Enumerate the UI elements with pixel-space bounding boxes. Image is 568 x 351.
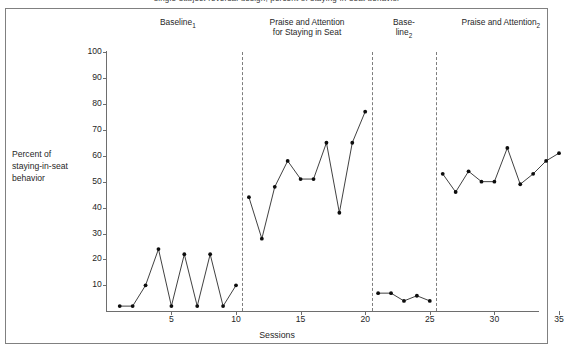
phase-divider [372,52,373,311]
phase-header-subscript: 2 [409,32,413,39]
phase-baseline-1: Baseline1 [108,17,248,31]
x-tick-label: 30 [481,314,507,324]
y-tick-mark [103,182,107,183]
x-tick-label: 10 [223,314,249,324]
data-point [557,151,561,155]
y-tick-label: 20 [78,253,102,263]
y-tick-label: 40 [78,202,102,212]
x-tick-mark [430,311,431,315]
x-tick-mark [494,311,495,315]
x-tick-label: 35 [546,314,568,324]
phase-divider [242,52,243,311]
x-tick-mark [301,311,302,315]
y-tick-mark [103,208,107,209]
y-tick-label: 90 [78,72,102,82]
y-tick-label: 50 [78,176,102,186]
y-tick-label: 70 [78,124,102,134]
y-tick-label: 30 [78,228,102,238]
y-tick-label: 80 [78,98,102,108]
phase-header-subscript: 2 [537,22,541,29]
x-tick-mark [365,311,366,315]
phase-praise-2: Praise and Attention2 [431,17,568,31]
y-tick-mark [103,285,107,286]
y-tick-label: 100 [78,46,102,56]
y-tick-mark [103,130,107,131]
y-tick-label: 10 [78,279,102,289]
x-axis-label: Sessions [0,330,554,340]
y-axis-label-line: staying-in-seat [12,160,98,172]
x-tick-mark [171,311,172,315]
y-tick-label: 60 [78,150,102,160]
x-tick-mark [236,311,237,315]
x-tick-label: 5 [158,314,184,324]
phase-header-subscript: 1 [192,22,196,29]
x-tick-mark [559,311,560,315]
y-tick-mark [103,78,107,79]
y-tick-mark [103,104,107,105]
y-tick-mark [103,234,107,235]
x-tick-label: 25 [417,314,443,324]
y-tick-mark [103,259,107,260]
phase-header-line: Baseline1 [108,17,248,31]
x-tick-label: 20 [352,314,378,324]
x-tick-label: 15 [288,314,314,324]
phase-divider [436,52,437,311]
y-tick-mark [103,156,107,157]
phase-header-line: Praise and Attention2 [431,17,568,31]
cut-off-caption: single-subject reversal design, percent … [0,0,554,3]
y-tick-mark [103,52,107,53]
